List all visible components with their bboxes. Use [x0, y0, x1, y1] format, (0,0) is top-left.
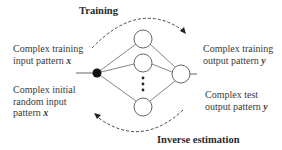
right-bottom-line2: output pattern y — [205, 101, 268, 113]
left-top-label: Complex training input pattern x — [13, 43, 83, 66]
neural-network-diagram — [0, 0, 282, 150]
right-top-line2: output pattern y — [203, 55, 273, 67]
right-bottom-var: y — [263, 101, 267, 112]
hidden-node — [134, 30, 152, 48]
right-top-label: Complex training output pattern y — [203, 43, 273, 66]
training-arrowhead-icon — [180, 27, 186, 34]
left-top-line2-text: input pattern — [13, 55, 66, 66]
right-bottom-line2-text: output pattern — [205, 101, 263, 112]
ellipsis-dot — [142, 77, 145, 80]
right-top-var: y — [261, 55, 265, 66]
left-bottom-line2: random input — [13, 96, 76, 108]
ellipsis-dot — [142, 89, 145, 92]
left-bottom-var: x — [43, 107, 48, 118]
hidden-node — [134, 54, 152, 72]
left-top-line2: input pattern x — [13, 55, 83, 67]
right-bottom-line1: Complex test — [205, 89, 268, 101]
right-bottom-label: Complex test output pattern y — [205, 89, 268, 112]
left-top-line1: Complex training — [13, 43, 83, 55]
inverse-arrowhead-icon — [94, 113, 101, 119]
edge — [152, 64, 172, 72]
output-node — [172, 65, 190, 83]
left-top-var: x — [66, 55, 71, 66]
edge — [150, 44, 175, 67]
ellipsis-dot — [142, 83, 145, 86]
training-label: Training — [79, 5, 118, 16]
hidden-node — [134, 98, 152, 116]
left-bottom-line1: Complex initial — [13, 84, 76, 96]
input-node — [93, 69, 102, 78]
right-top-line2-text: output pattern — [203, 55, 261, 66]
edge — [150, 81, 175, 101]
edge — [97, 73, 136, 101]
left-bottom-line3: pattern x — [13, 107, 76, 119]
inverse-estimation-label: Inverse estimation — [157, 134, 240, 145]
right-top-line1: Complex training — [203, 43, 273, 55]
left-bottom-label: Complex initial random input pattern x — [13, 84, 76, 119]
left-bottom-line3-text: pattern — [13, 107, 43, 118]
